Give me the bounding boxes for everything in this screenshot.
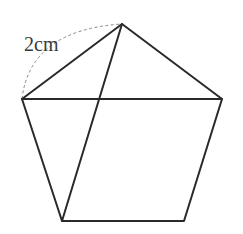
side-length-label: 2cm (24, 33, 59, 55)
pentagon-diagram: 2cm (0, 0, 243, 234)
diagonal-top-bottomleft (62, 24, 122, 221)
